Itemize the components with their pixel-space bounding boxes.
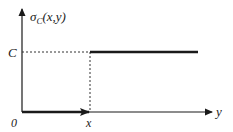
x-marker-label: x	[85, 116, 92, 130]
y-axis-label: σC(x,y)	[30, 9, 66, 26]
origin-label: 0	[11, 116, 17, 130]
x-axis-label: y	[214, 104, 222, 119]
step-function-diagram: σC(x,y) C 0 x y	[0, 0, 233, 132]
level-c-label: C	[8, 45, 17, 60]
